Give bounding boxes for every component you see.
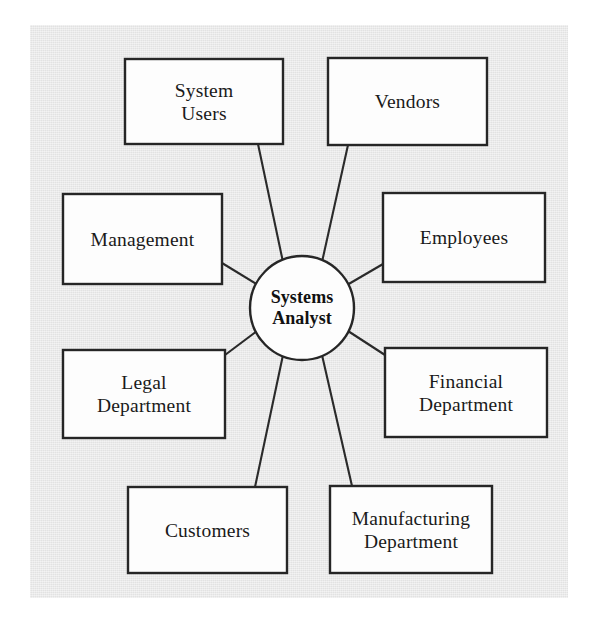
connector-hub-to-customers — [255, 355, 283, 487]
node-label-management: Management — [63, 194, 222, 284]
hub-label: Systems Analyst — [250, 256, 354, 360]
connector-hub-to-system-users — [258, 144, 283, 262]
node-label-employees: Employees — [383, 193, 545, 282]
connector-hub-to-vendors — [322, 145, 348, 262]
diagram-root: Systems Analyst System UsersVendorsManag… — [0, 0, 591, 628]
node-label-manufacturing-department: Manufacturing Department — [330, 486, 492, 573]
node-label-vendors: Vendors — [328, 58, 487, 145]
node-label-financial-department: Financial Department — [385, 348, 547, 437]
connector-hub-to-manufacturing — [322, 355, 352, 486]
node-label-system-users: System Users — [125, 59, 283, 144]
node-label-customers: Customers — [128, 487, 287, 573]
node-label-legal-department: Legal Department — [63, 350, 225, 438]
